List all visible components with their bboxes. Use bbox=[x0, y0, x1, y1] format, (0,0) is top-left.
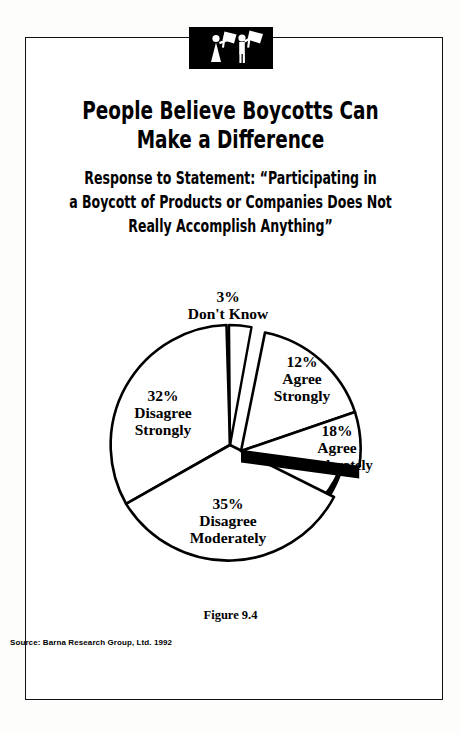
agree-strongly-name-1: Agree bbox=[282, 370, 321, 387]
disagree-moderately-name-2: Moderately bbox=[190, 529, 267, 546]
disagree-moderately-pct: 35% bbox=[213, 495, 244, 512]
figure-caption: Figure 9.4 bbox=[0, 608, 461, 623]
agree-strongly-name-2: Strongly bbox=[274, 387, 331, 404]
subtitle-line-2: a Boycott of Products or Companies Does … bbox=[41, 190, 419, 214]
page-subtitle: Response to Statement: “Participating in… bbox=[0, 166, 461, 238]
title-line-2: Make a Difference bbox=[41, 125, 419, 154]
dont-know-name: Don't Know bbox=[188, 305, 269, 322]
subtitle-line-3: Really Accomplish Anything” bbox=[41, 214, 419, 238]
protesters-picket-signs-icon bbox=[189, 27, 273, 69]
dont-know-pct: 3% bbox=[216, 288, 239, 305]
subtitle-line-1: Response to Statement: “Participating in bbox=[41, 166, 419, 190]
pie-chart: 3% Don't Know 12% Agree Strongly 18% Agr… bbox=[0, 255, 461, 615]
disagree-strongly-pct: 32% bbox=[148, 387, 179, 404]
disagree-strongly-name-2: Strongly bbox=[135, 421, 192, 438]
title-line-1: People Believe Boycotts Can bbox=[41, 96, 419, 125]
agree-moderately-pct: 18% bbox=[322, 422, 353, 439]
pie-label-dont-know: 3% Don't Know bbox=[188, 288, 269, 322]
agree-moderately-name-1: Agree bbox=[317, 439, 356, 456]
figure-page: People Believe Boycotts Can Make a Diffe… bbox=[0, 0, 461, 734]
source-credit: Source: Barna Research Group, Ltd. 1992 bbox=[10, 638, 172, 647]
disagree-moderately-name-1: Disagree bbox=[199, 512, 257, 529]
page-title: People Believe Boycotts Can Make a Diffe… bbox=[0, 96, 461, 154]
disagree-strongly-name-1: Disagree bbox=[134, 404, 192, 421]
agree-moderately-name-2: Moderately bbox=[301, 457, 373, 473]
agree-strongly-pct: 12% bbox=[287, 353, 318, 370]
